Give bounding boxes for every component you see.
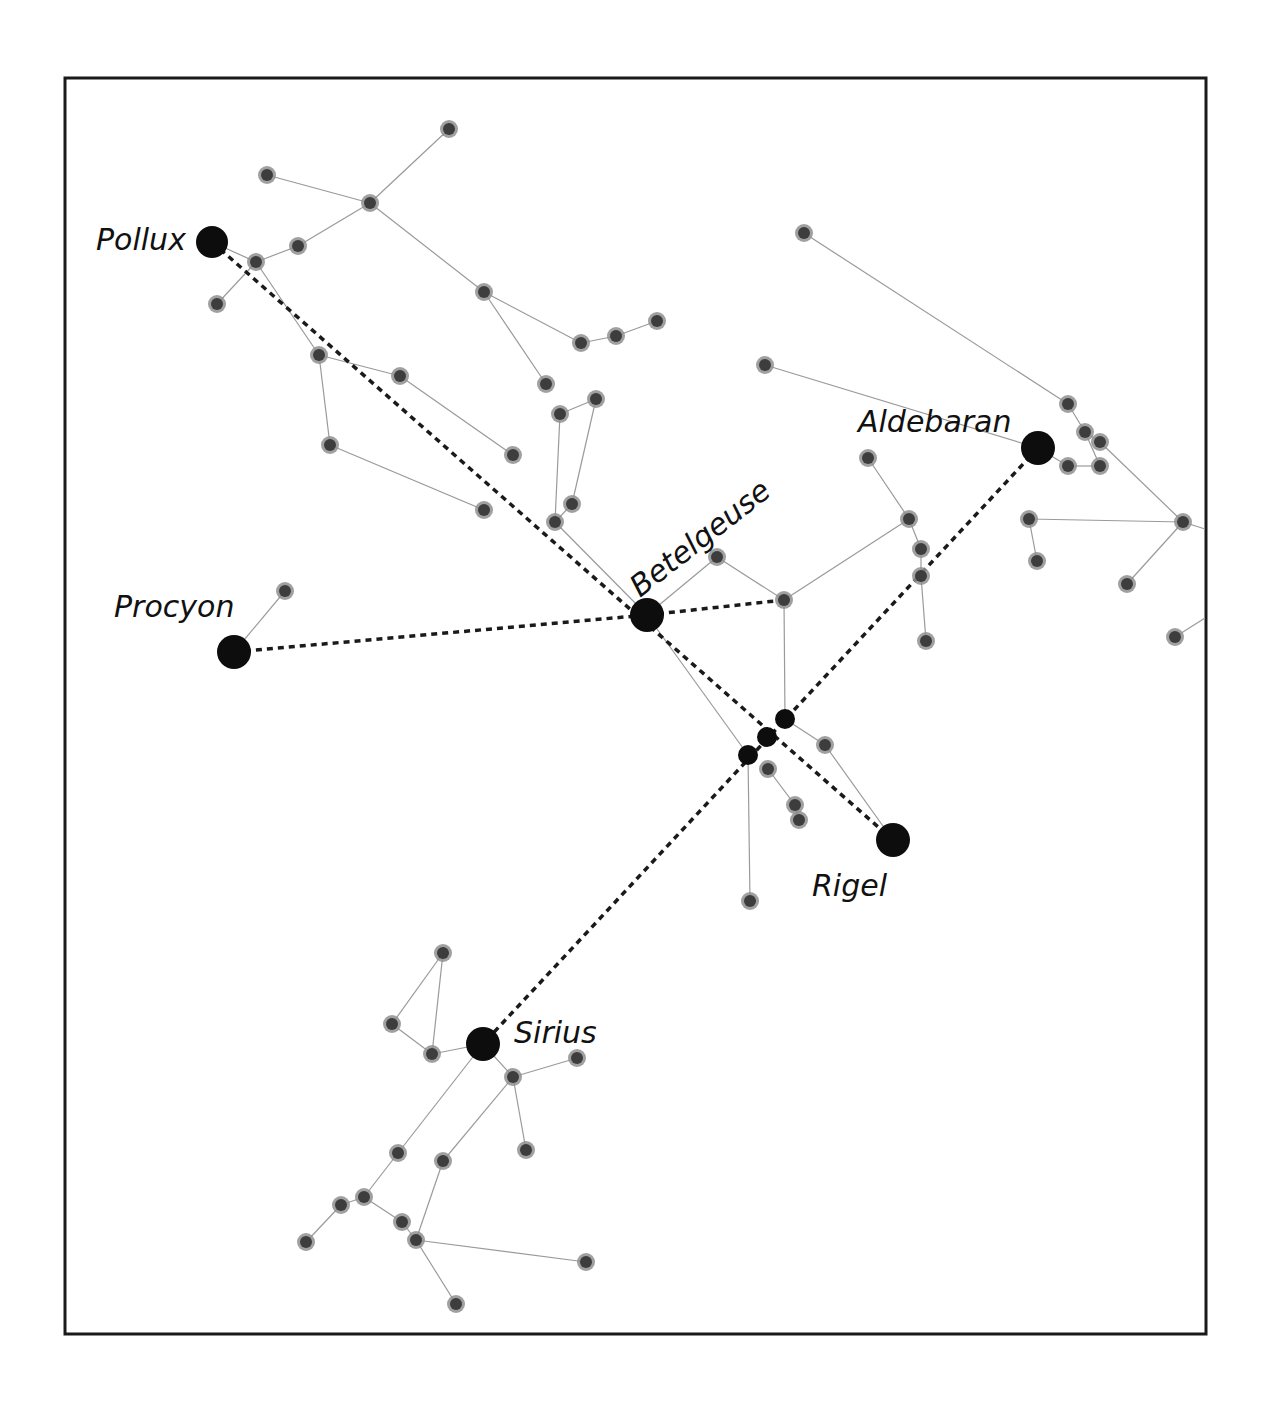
constellation-line — [267, 175, 370, 203]
star-icon — [607, 327, 625, 345]
constellation-line — [921, 576, 926, 641]
star-icon — [423, 1045, 441, 1063]
constellation-line — [717, 557, 784, 600]
star-icon — [551, 405, 569, 423]
constellation-line — [825, 745, 893, 840]
constellation-line — [398, 1044, 483, 1153]
star-icon — [587, 390, 605, 408]
constellation-line — [330, 445, 484, 510]
dashed-line-aldebaran-sirius — [483, 448, 1038, 1044]
star-icon — [407, 1231, 425, 1249]
star-icon — [447, 1295, 465, 1313]
star-icon — [546, 513, 564, 531]
constellation-line — [572, 399, 596, 504]
constellation-line — [513, 1077, 526, 1150]
star-icon — [859, 449, 877, 467]
star-icon — [289, 237, 307, 255]
label-aldebaran: Aldebaran — [856, 404, 1012, 439]
belt-star-icon — [775, 709, 795, 729]
star-icon — [208, 295, 226, 313]
star-icon — [517, 1141, 535, 1159]
bright-star-aldebaran-icon — [1021, 431, 1055, 465]
constellation-line — [748, 755, 750, 901]
star-icon — [1076, 423, 1094, 441]
star-icon — [355, 1188, 373, 1206]
faint-stars — [208, 120, 1192, 1313]
star-icon — [795, 224, 813, 242]
dashed-connector-lines — [212, 242, 1038, 1044]
star-icon — [900, 510, 918, 528]
star-icon — [258, 166, 276, 184]
bright-star-rigel-icon — [876, 823, 910, 857]
star-icon — [383, 1015, 401, 1033]
star-icon — [568, 1049, 586, 1067]
constellation-line — [400, 376, 513, 455]
constellation-line — [1127, 522, 1183, 584]
star-icon — [912, 567, 930, 585]
star-icon — [1020, 510, 1038, 528]
star-icon — [434, 1152, 452, 1170]
star-icon — [393, 1213, 411, 1231]
bright-star-betelgeuse-icon — [630, 598, 664, 632]
star-icon — [1174, 513, 1192, 531]
constellation-line — [319, 355, 400, 376]
constellation-line — [555, 414, 560, 522]
constellation-line — [484, 292, 581, 343]
constellation-line — [868, 458, 909, 519]
dashed-line-pollux-rigel — [212, 242, 893, 840]
star-icon — [572, 334, 590, 352]
star-icon — [475, 283, 493, 301]
star-icon — [1059, 395, 1077, 413]
star-icon — [475, 501, 493, 519]
label-pollux: Pollux — [96, 222, 186, 257]
constellation-line — [1100, 442, 1183, 522]
constellation-line — [298, 203, 370, 246]
star-icon — [756, 356, 774, 374]
star-icon — [1091, 457, 1109, 475]
star-icon — [504, 446, 522, 464]
constellation-line — [784, 600, 785, 719]
star-icon — [1118, 575, 1136, 593]
constellation-line — [319, 355, 330, 445]
star-icon — [297, 1233, 315, 1251]
star-icon — [434, 944, 452, 962]
diagram-frame — [65, 78, 1206, 1334]
star-icon — [391, 367, 409, 385]
constellation-line — [804, 233, 1068, 404]
star-icon — [1028, 552, 1046, 570]
star-icon — [790, 811, 808, 829]
belt-star-icon — [757, 727, 777, 747]
star-icon — [389, 1144, 407, 1162]
star-icon — [1166, 628, 1184, 646]
constellation-lines — [212, 129, 1205, 1304]
label-rigel: Rigel — [812, 868, 888, 903]
bright-star-procyon-icon — [217, 635, 251, 669]
belt-star-icon — [738, 745, 758, 765]
bright-star-sirius-icon — [466, 1027, 500, 1061]
star-icon — [332, 1196, 350, 1214]
star-icon — [537, 375, 555, 393]
star-icon — [321, 436, 339, 454]
star-icon — [741, 892, 759, 910]
star-icon — [917, 632, 935, 650]
star-icon — [361, 194, 379, 212]
constellation-line — [392, 953, 443, 1024]
constellation-line — [370, 203, 484, 292]
star-icon — [759, 760, 777, 778]
star-icon — [247, 253, 265, 271]
star-icon — [310, 346, 328, 364]
star-icon — [648, 312, 666, 330]
constellation-line — [416, 1161, 443, 1240]
constellation-line — [513, 1058, 577, 1077]
dashed-line-betelgeuse-meissa-branch — [647, 600, 784, 615]
constellation-line — [784, 519, 909, 600]
constellation-line — [416, 1240, 456, 1304]
constellation-line — [370, 129, 449, 203]
star-icon — [563, 495, 581, 513]
label-procyon: Procyon — [114, 589, 234, 624]
label-betelgeuse: Betelgeuse — [623, 472, 777, 603]
constellation-line — [484, 292, 546, 384]
star-icon — [1091, 433, 1109, 451]
constellation-line — [432, 953, 443, 1054]
star-icon — [912, 540, 930, 558]
